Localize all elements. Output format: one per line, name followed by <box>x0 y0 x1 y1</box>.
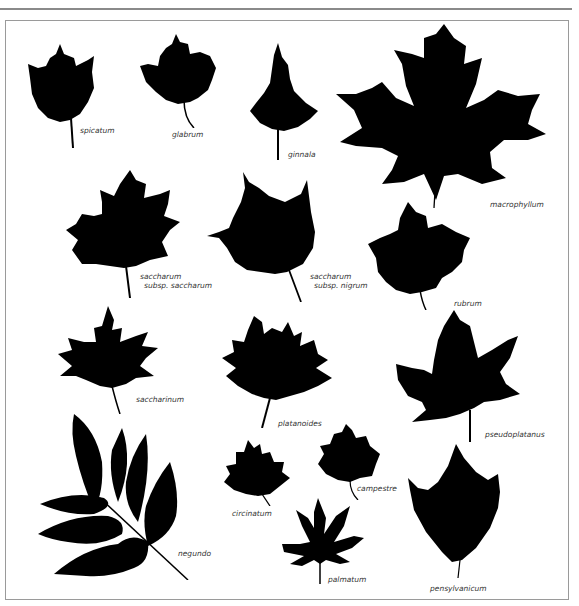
label-rubrum: rubrum <box>454 299 482 308</box>
leaf-palmatum-icon <box>280 498 366 584</box>
top-rule <box>0 8 572 10</box>
label-saccharum-nigrum-line2: subsp. nigrum <box>310 281 368 290</box>
leaf-rubrum-icon <box>366 202 472 310</box>
label-saccharum-saccharum-line2: subsp. saccharum <box>140 281 212 290</box>
label-campestre: campestre <box>357 484 397 493</box>
leaf-pensylvanicum-icon <box>404 444 504 578</box>
label-glabrum: glabrum <box>172 130 203 139</box>
label-saccharum-saccharum-line1: saccharum <box>140 272 181 281</box>
leaf-saccharum-nigrum-icon <box>205 172 325 302</box>
label-saccharum-nigrum-line1: saccharum <box>310 272 351 281</box>
label-palmatum: palmatum <box>328 575 366 584</box>
label-ginnala: ginnala <box>288 150 316 159</box>
label-circinatum: circinatum <box>232 509 272 518</box>
leaf-circinatum-icon <box>222 440 292 506</box>
leaf-platanoides-icon <box>220 316 334 428</box>
label-saccharum-saccharum: saccharum subsp. saccharum <box>140 272 212 290</box>
label-pseudoplatanus: pseudoplatanus <box>485 430 545 439</box>
label-macrophyllum: macrophyllum <box>490 200 544 209</box>
leaf-glabrum-icon <box>138 34 218 128</box>
label-negundo: negundo <box>178 549 211 558</box>
label-spicatum: spicatum <box>80 126 114 135</box>
label-saccharinum: saccharinum <box>136 395 184 404</box>
label-saccharum-nigrum: saccharum subsp. nigrum <box>310 272 368 290</box>
leaf-ginnala-icon <box>248 43 318 160</box>
leaf-negundo-icon <box>38 412 194 580</box>
label-pensylvanicum: pensylvanicum <box>430 584 487 593</box>
leaf-pseudoplatanus-icon <box>394 310 528 442</box>
leaf-macrophyllum-icon <box>332 24 552 208</box>
